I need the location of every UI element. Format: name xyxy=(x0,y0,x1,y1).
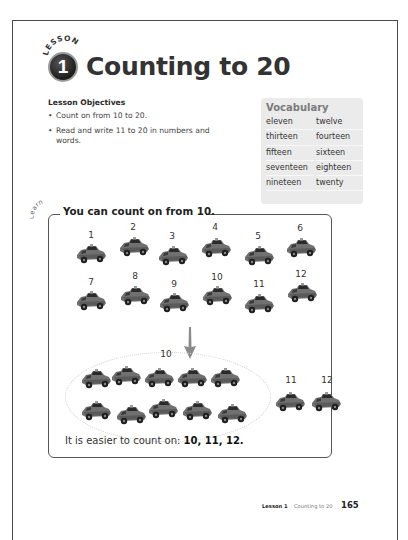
page-number: 165 xyxy=(341,500,359,510)
vocab-word: twelve xyxy=(316,115,364,130)
sentence-prefix: It is easier to count on: xyxy=(65,435,184,446)
vocab-word: thirteen xyxy=(266,130,314,145)
vocab-word: nineteen xyxy=(266,176,314,191)
car-icon xyxy=(310,391,342,413)
sentence-numbers: 10, 11, 12. xyxy=(184,435,244,446)
learn-tag: Learn xyxy=(30,198,58,220)
car-number-label: 12 xyxy=(295,269,306,279)
car-icon xyxy=(286,282,318,304)
car-icon xyxy=(243,245,275,267)
car-icon xyxy=(274,391,306,413)
car-icon xyxy=(75,290,107,312)
car-number-label: 4 xyxy=(212,222,218,232)
car-icon xyxy=(118,236,150,258)
car-number-label: 12 xyxy=(321,375,332,385)
vocabulary-grid: eleven twelve thirteen fourteen fifteen … xyxy=(266,115,358,191)
car-number-label: 7 xyxy=(88,277,94,287)
car-icon xyxy=(181,400,213,422)
car-icon xyxy=(119,285,151,307)
car-icon xyxy=(143,367,175,389)
car-icon xyxy=(110,365,142,387)
car-icon xyxy=(209,367,241,389)
learn-heading: You can count on from 10. xyxy=(63,205,215,217)
vocab-word: eleven xyxy=(266,115,314,130)
vocab-word: eighteen xyxy=(316,161,364,176)
car-number-label: 6 xyxy=(297,223,303,233)
lesson-number: 1 xyxy=(58,56,69,78)
footer-title: Counting to 20 xyxy=(294,503,333,509)
group-of-ten-ellipse xyxy=(65,352,271,442)
car-icon xyxy=(115,404,147,426)
group-label: 10 xyxy=(160,349,171,359)
car-number-label: 1 xyxy=(88,230,94,240)
car-number-label: 11 xyxy=(285,375,296,385)
learn-tag-text: Learn xyxy=(30,198,44,219)
vocabulary-title: Vocabulary xyxy=(266,102,358,113)
vocab-word: twenty xyxy=(316,176,364,191)
car-icon xyxy=(200,237,232,259)
car-icon xyxy=(285,237,317,259)
car-icon xyxy=(158,292,190,314)
svg-text:Learn: Learn xyxy=(30,198,44,219)
vocabulary-box: Vocabulary eleven twelve thirteen fourte… xyxy=(261,98,363,204)
car-number-label: 9 xyxy=(171,279,177,289)
vocab-word: fourteen xyxy=(316,130,364,145)
vocab-word: fifteen xyxy=(266,146,314,161)
objective-item: Count on from 10 to 20. xyxy=(48,111,218,122)
car-number-label: 10 xyxy=(211,272,222,282)
lesson-number-badge: 1 xyxy=(48,52,78,82)
car-icon xyxy=(201,285,233,307)
car-number-label: 8 xyxy=(132,271,138,281)
vocab-word: sixteen xyxy=(316,146,364,161)
car-icon xyxy=(80,400,112,422)
car-number-label: 2 xyxy=(130,222,136,232)
car-icon xyxy=(157,245,189,267)
car-icon xyxy=(80,368,112,390)
vocab-word: seventeen xyxy=(266,161,314,176)
count-on-sentence: It is easier to count on: 10, 11, 12. xyxy=(65,435,244,446)
objective-item: Read and write 11 to 20 in numbers and w… xyxy=(48,126,218,147)
car-icon xyxy=(243,293,275,315)
car-number-label: 5 xyxy=(255,231,261,241)
car-number-label: 3 xyxy=(169,231,175,241)
car-number-label: 11 xyxy=(253,279,264,289)
page-title: Counting to 20 xyxy=(86,52,290,81)
car-icon xyxy=(216,403,248,425)
car-icon xyxy=(147,398,179,420)
objectives-heading: Lesson Objectives xyxy=(48,98,125,107)
car-icon xyxy=(176,367,208,389)
objectives-list: Count on from 10 to 20. Read and write 1… xyxy=(48,111,218,151)
car-icon xyxy=(75,243,107,265)
footer-lesson: Lesson 1 xyxy=(262,503,288,509)
